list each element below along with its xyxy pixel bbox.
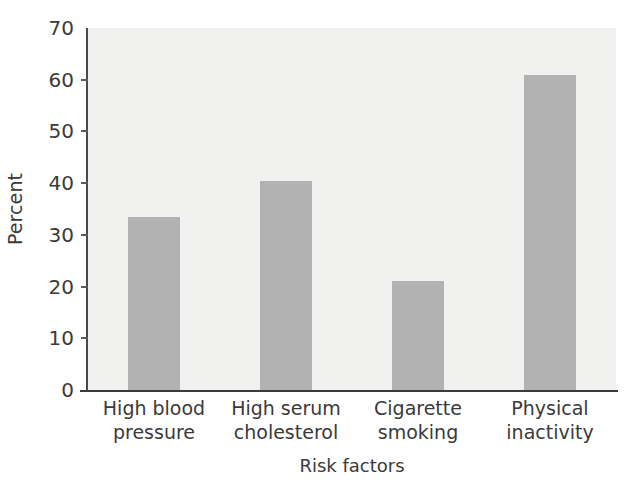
x-axis-tick-label-line: cholesterol (220, 420, 352, 444)
y-axis-tick-label: 10 (20, 328, 74, 348)
x-axis-tick-label-line: smoking (352, 420, 484, 444)
y-axis-tick-label: 60 (20, 70, 74, 90)
y-axis-tick-label: 0 (20, 380, 74, 400)
x-axis-tick-label: Cigarettesmoking (352, 396, 484, 444)
y-axis-tick-label: 50 (20, 121, 74, 141)
x-axis-tick-label: High serumcholesterol (220, 396, 352, 444)
x-axis-tick-label: Physicalinactivity (484, 396, 616, 444)
x-axis-tick-labels: High bloodpressureHigh serumcholesterolC… (88, 396, 616, 456)
bar-chart-figure: 010203040506070 Percent High bloodpressu… (0, 0, 629, 493)
x-axis-title: Risk factors (88, 455, 616, 477)
y-axis-tick-mark (81, 234, 88, 236)
x-axis-tick-label: High bloodpressure (88, 396, 220, 444)
x-axis-tick-label-line: High serum (231, 397, 341, 419)
y-axis-tick-labels: 010203040506070 (20, 0, 74, 493)
bar (128, 217, 180, 390)
y-axis-title: Percent (2, 169, 28, 249)
y-axis-tick-label: 70 (20, 18, 74, 38)
x-axis-tick-label-line: Cigarette (374, 397, 462, 419)
x-axis-tick-label-line: Physical (511, 397, 588, 419)
x-axis-line (80, 390, 618, 392)
plot-area (88, 28, 616, 390)
y-axis-tick-label: 20 (20, 277, 74, 297)
x-axis-tick-label-line: High blood (103, 397, 205, 419)
x-axis-tick-label-line: pressure (88, 420, 220, 444)
y-axis-tick-mark (81, 130, 88, 132)
y-axis-tick-mark (81, 182, 88, 184)
y-axis-tick-mark (81, 337, 88, 339)
y-axis-tick-mark (81, 79, 88, 81)
y-axis-tick-label: 30 (20, 225, 74, 245)
y-axis-tick-mark (81, 286, 88, 288)
bar (392, 281, 444, 390)
bar (260, 181, 312, 390)
x-axis-tick-label-line: inactivity (484, 420, 616, 444)
bar (524, 75, 576, 390)
y-axis-tick-label: 40 (20, 173, 74, 193)
